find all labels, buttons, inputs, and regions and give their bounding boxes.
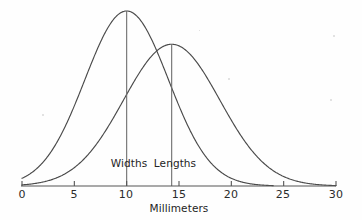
x-tick-label-20: 20 — [224, 188, 238, 201]
x-axis-ticks — [22, 181, 336, 186]
x-tick-label-0: 0 — [18, 188, 25, 201]
chart-plot-area — [0, 0, 362, 220]
x-tick-label-25: 25 — [276, 188, 290, 201]
x-tick-label-10: 10 — [119, 188, 133, 201]
curve-widths — [22, 11, 273, 186]
x-tick-label-30: 30 — [329, 188, 343, 201]
x-axis-title: Millimeters — [150, 202, 209, 214]
curve-label-lengths: Lengths — [154, 157, 196, 169]
distribution-chart: 0 5 10 15 20 25 30 Widths Lengths Millim… — [0, 0, 362, 220]
x-tick-label-15: 15 — [172, 188, 186, 201]
x-tick-label-5: 5 — [70, 188, 77, 201]
curve-label-widths: Widths — [111, 157, 148, 169]
